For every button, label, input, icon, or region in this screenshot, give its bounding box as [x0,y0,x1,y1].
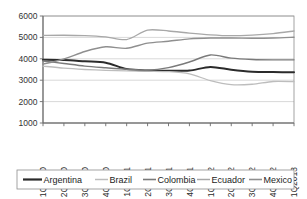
legend-label-colombia: Colombia [158,175,196,185]
series-line-colombia [43,55,294,70]
y-axis-labels: 100020003000400050006000 [19,11,38,128]
series-line-brazil [43,66,294,85]
legend-label-brazil: Brazil [110,175,133,185]
legend-label-ecuador: Ecuador [212,175,246,185]
y-axis-tick-label: 5000 [19,32,38,42]
data-series [43,30,294,85]
chart-legend: ArgentinaBrazilColombiaEcuadorMexico [17,170,294,189]
chart-canvas: 100020003000400050006000 1Q20102Q20103Q2… [0,0,307,199]
y-axis-tick-label: 6000 [19,11,38,21]
legend-label-argentina: Argentina [44,175,83,185]
y-axis-tick-label: 1000 [19,118,38,128]
y-axis-tick-label: 3000 [19,75,38,85]
legend-label-mexico: Mexico [264,175,293,185]
y-axis-tick-label: 2000 [19,97,38,107]
y-axis-tick-label: 4000 [19,54,38,64]
line-chart-figure: 100020003000400050006000 1Q20102Q20103Q2… [0,0,307,199]
